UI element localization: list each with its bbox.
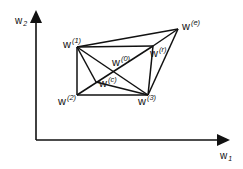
x-axis-label: w1 (219, 150, 232, 162)
label-we: w(e) (181, 18, 201, 32)
label-w2: w(2) (57, 93, 77, 107)
x-axis-arrow-icon (217, 134, 230, 146)
edge-w1-wc (77, 47, 96, 82)
label-wr: w(r) (149, 45, 167, 59)
y-axis-arrow-icon (30, 10, 42, 23)
edge-w1-wr (77, 46, 153, 47)
simplex-diagram: w2 w1 w(1) w(2) w(3) w(e) w(r) w(0) w(c) (0, 0, 243, 169)
y-axis-label: w2 (14, 15, 27, 27)
edge-w2-wr (77, 46, 153, 95)
label-w3: w(3) (137, 93, 157, 107)
axes (30, 10, 230, 146)
